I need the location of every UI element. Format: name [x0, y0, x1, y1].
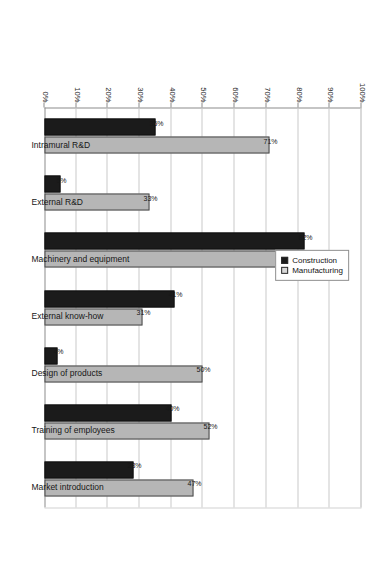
bar-value-label: 28% — [127, 461, 141, 469]
gridline — [138, 107, 139, 507]
value-axis-label: 100% — [357, 62, 365, 102]
category-label: Market introduction — [31, 482, 103, 491]
bar-construction: 40% — [44, 404, 171, 421]
chart-page: 0%10%20%30%40%50%60%70%80%90%100% 35%71%… — [0, 0, 379, 563]
bar-value-label: 41% — [168, 290, 182, 298]
category-label: Intramural R&D — [31, 140, 90, 149]
axis-tick — [360, 102, 361, 107]
chart-legend: ConstructionManufacturing — [275, 249, 349, 280]
bar-construction: 28% — [44, 461, 133, 478]
gridline — [297, 107, 298, 507]
bar-value-label: 52% — [203, 422, 217, 430]
axis-tick — [233, 102, 234, 107]
category-label: Machinery and equipment — [31, 254, 129, 263]
bar-construction: 41% — [44, 290, 174, 307]
axis-tick — [106, 102, 107, 107]
category-label: Design of products — [31, 368, 102, 377]
value-axis-label: 60% — [230, 62, 238, 102]
axis-tick — [202, 102, 203, 107]
bar-value-label: 33% — [143, 194, 157, 202]
bar-value-label: 5% — [56, 176, 66, 184]
value-axis-label: 40% — [167, 62, 175, 102]
axis-tick — [265, 102, 266, 107]
value-axis-label: 90% — [325, 62, 333, 102]
value-axis-label: 50% — [199, 62, 207, 102]
bar-value-label: 35% — [149, 119, 163, 127]
legend-swatch-icon — [281, 266, 288, 273]
gridline — [170, 107, 171, 507]
legend-item: Manufacturing — [281, 265, 343, 274]
value-axis-label: 20% — [103, 62, 111, 102]
category-label: External R&D — [31, 197, 83, 206]
gridline — [75, 107, 76, 507]
gridline — [233, 107, 234, 507]
legend-swatch-icon — [281, 256, 288, 263]
gridline — [265, 107, 266, 507]
value-axis-label: 0% — [40, 62, 48, 102]
bar-value-label: 4% — [53, 347, 63, 355]
gridline — [360, 107, 361, 507]
bar-value-label: 71% — [263, 137, 277, 145]
legend-item: Construction — [281, 255, 343, 264]
value-axis-label: 80% — [294, 62, 302, 102]
axis-tick — [170, 102, 171, 107]
bar-value-label: 31% — [136, 308, 150, 316]
bar-construction: 35% — [44, 118, 155, 135]
gridline — [106, 107, 107, 507]
axis-tick — [43, 102, 44, 107]
legend-label: Manufacturing — [292, 265, 343, 274]
bar-construction: 5% — [44, 175, 60, 192]
bar-value-label: 47% — [187, 479, 201, 487]
value-axis-label: 70% — [262, 62, 270, 102]
legend-label: Construction — [292, 255, 337, 264]
bar-construction: 82% — [44, 232, 304, 249]
category-label: Training of employees — [31, 425, 114, 434]
axis-tick — [138, 102, 139, 107]
axis-tick — [328, 102, 329, 107]
category-label: External know-how — [31, 311, 103, 320]
rotated-figure-frame: 0%10%20%30%40%50%60%70%80%90%100% 35%71%… — [0, 0, 379, 563]
bar-value-label: 50% — [196, 365, 210, 373]
bar-chart: 0%10%20%30%40%50%60%70%80%90%100% 35%71%… — [0, 0, 379, 563]
bar-construction: 4% — [44, 347, 57, 364]
axis-tick — [75, 102, 76, 107]
gridline — [328, 107, 329, 507]
bar-value-label: 82% — [298, 233, 312, 241]
axis-tick — [297, 102, 298, 107]
value-axis-label: 30% — [135, 62, 143, 102]
gridline — [202, 107, 203, 507]
value-axis-label: 10% — [72, 62, 80, 102]
bar-value-label: 40% — [165, 404, 179, 412]
